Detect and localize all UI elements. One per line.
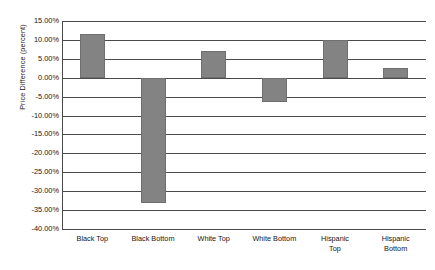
bar (262, 78, 287, 103)
x-axis-category-label: White Bottom (244, 234, 305, 244)
y-axis-tick-label: -5.00% (3, 93, 59, 101)
x-axis-category-label: Black Bottom (123, 234, 184, 244)
y-axis-tick-label: 0.00% (3, 74, 59, 82)
y-axis-tick-label: -40.00% (3, 225, 59, 233)
y-axis-tick-label: 15.00% (3, 17, 59, 25)
gridline (62, 153, 426, 154)
gridline (62, 40, 426, 41)
y-axis-tick-label: -25.00% (3, 168, 59, 176)
x-axis-category-label-line: White Bottom (244, 234, 305, 244)
y-axis-tick-label: -20.00% (3, 149, 59, 157)
plot-area (62, 21, 426, 229)
y-axis-tick-label: -15.00% (3, 130, 59, 138)
bar (323, 40, 348, 78)
bar-chart: Price Difference (percent) 15.00%10.00%5… (0, 0, 435, 270)
gridline (62, 59, 426, 60)
bar (383, 68, 408, 77)
gridline (62, 78, 426, 79)
y-axis-tick-label: -10.00% (3, 112, 59, 120)
y-axis-tick-labels: 15.00%10.00%5.00%0.00%-5.00%-10.00%-15.0… (0, 0, 59, 250)
x-axis-category-label-line: Hispanic (305, 234, 366, 244)
x-axis-category-label-line: White Top (183, 234, 244, 244)
x-axis-category-label: White Top (183, 234, 244, 244)
bar (141, 78, 166, 203)
y-axis-tick-label: -35.00% (3, 206, 59, 214)
gridline (62, 134, 426, 135)
y-axis-tick-label: 10.00% (3, 36, 59, 44)
gridline (62, 116, 426, 117)
x-axis-category-label: HispanicBottom (365, 234, 426, 253)
x-axis-category-label: HispanicTop (305, 234, 366, 253)
bar (80, 34, 105, 77)
gridline (62, 210, 426, 211)
y-axis-tick-label: -30.00% (3, 187, 59, 195)
x-axis-category-label-line: Black Top (62, 234, 123, 244)
x-axis-category-labels: Black TopBlack BottomWhite TopWhite Bott… (62, 234, 426, 266)
x-axis-line (62, 229, 426, 230)
x-axis-category-label-line: Black Bottom (123, 234, 184, 244)
x-axis-category-label-line: Hispanic (365, 234, 426, 244)
gridline (62, 97, 426, 98)
gridline (62, 191, 426, 192)
x-axis-category-label-line: Top (305, 244, 366, 254)
bar (201, 51, 226, 77)
gridline (62, 21, 426, 22)
y-axis-tick-label: 5.00% (3, 55, 59, 63)
x-axis-category-label-line: Bottom (365, 244, 426, 254)
x-axis-category-label: Black Top (62, 234, 123, 244)
gridline (62, 172, 426, 173)
